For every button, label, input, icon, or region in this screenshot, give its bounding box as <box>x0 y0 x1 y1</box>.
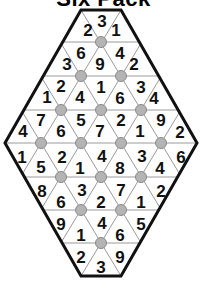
cell-digit[interactable]: 7 <box>36 111 45 130</box>
grid-node <box>76 138 87 149</box>
cell-digit[interactable]: 1 <box>17 148 26 167</box>
cell-digit[interactable]: 3 <box>97 12 106 31</box>
grid-node <box>76 205 87 216</box>
cell-digit[interactable]: 3 <box>62 55 71 74</box>
cell-digit[interactable]: 2 <box>175 123 184 142</box>
cell-digit[interactable]: 6 <box>115 89 124 108</box>
cell-digit[interactable]: 8 <box>115 159 124 178</box>
cell-digit[interactable]: 1 <box>96 78 105 97</box>
grid-node <box>156 138 167 149</box>
cell-digit[interactable]: 9 <box>95 55 104 74</box>
grid-node <box>136 172 147 183</box>
cell-digit[interactable]: 4 <box>115 44 125 63</box>
cell-digit[interactable]: 3 <box>96 258 105 277</box>
cell-digit[interactable]: 5 <box>76 111 85 130</box>
grid-node <box>136 105 147 116</box>
cell-digit[interactable]: 7 <box>116 181 125 200</box>
cell-digit[interactable]: 9 <box>156 111 165 130</box>
cell-digit[interactable]: 4 <box>18 122 28 141</box>
cell-digit[interactable]: 5 <box>36 158 45 177</box>
cell-digit[interactable]: 6 <box>76 44 85 63</box>
cell-digit[interactable]: 2 <box>56 77 65 96</box>
cell-digit[interactable]: 1 <box>76 226 85 245</box>
cell-digit[interactable]: 2 <box>83 21 92 40</box>
grid-node <box>56 105 67 116</box>
cell-digit[interactable]: 9 <box>56 215 65 234</box>
cell-digit[interactable]: 2 <box>129 55 138 74</box>
cell-digit[interactable]: 1 <box>75 159 84 178</box>
cell-digit[interactable]: 5 <box>136 215 145 234</box>
cell-digit[interactable]: 4 <box>155 159 165 178</box>
grid-node <box>96 238 107 249</box>
cell-digit[interactable]: 4 <box>97 214 107 233</box>
grid-node <box>96 172 107 183</box>
cell-digit[interactable]: 8 <box>37 182 46 201</box>
grid-node <box>56 172 67 183</box>
hex-puzzle-grid: 2313694212416344765721921521483468632712… <box>0 0 207 286</box>
cell-digit[interactable]: 4 <box>149 89 159 108</box>
cell-digit[interactable]: 2 <box>156 182 165 201</box>
grid-node <box>36 138 47 149</box>
cell-digit[interactable]: 2 <box>96 193 105 212</box>
cell-digit[interactable]: 3 <box>77 181 86 200</box>
cell-digit[interactable]: 2 <box>116 111 125 130</box>
cell-digit[interactable]: 2 <box>57 148 66 167</box>
grid-node <box>116 138 127 149</box>
cell-digit[interactable]: 4 <box>75 88 85 107</box>
cell-digit[interactable]: 1 <box>136 193 145 212</box>
cell-digit[interactable]: 3 <box>137 147 146 166</box>
cell-digit[interactable]: 1 <box>42 88 51 107</box>
cell-digit[interactable]: 1 <box>135 122 144 141</box>
cell-digit[interactable]: 6 <box>56 193 65 212</box>
cell-digit[interactable]: 4 <box>97 147 107 166</box>
grid-node <box>116 71 127 82</box>
grid-node <box>96 105 107 116</box>
grid-node <box>76 71 87 82</box>
cell-digit[interactable]: 6 <box>56 122 65 141</box>
cell-digit[interactable]: 2 <box>76 248 85 267</box>
cell-digit[interactable]: 7 <box>95 122 104 141</box>
cell-digit[interactable]: 6 <box>176 148 185 167</box>
grid-node <box>116 205 127 216</box>
grid-node <box>96 37 107 48</box>
cell-digit[interactable]: 3 <box>136 78 145 97</box>
cell-digit[interactable]: 6 <box>115 226 124 245</box>
cell-digit[interactable]: 9 <box>115 248 124 267</box>
cell-digit[interactable]: 1 <box>111 21 120 40</box>
